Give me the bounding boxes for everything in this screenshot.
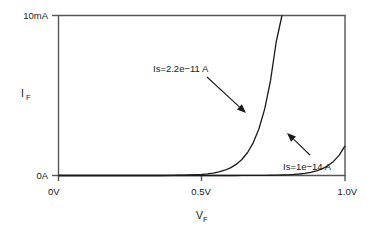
axis-ticks — [52, 16, 345, 182]
x-axis-title-subscript: F — [203, 215, 208, 224]
xtick-label-10v: 1.0V — [337, 186, 357, 197]
annotation-upper-leader — [207, 77, 239, 107]
chart-container: 10mA 0A 0V 0.5V 1.0V I F V F Is=2.2e−11 … — [0, 0, 367, 229]
x-axis-title-main: V — [196, 209, 203, 221]
data-curves — [59, 16, 346, 176]
diode-iv-chart: 10mA 0A 0V 0.5V 1.0V I F V F Is=2.2e−11 … — [0, 0, 367, 229]
xtick-label-05v: 0.5V — [191, 186, 211, 197]
x-axis-title: V F — [196, 209, 208, 224]
xtick-label-0v: 0V — [48, 186, 60, 197]
annotation-lower: Is=1e−14 A — [283, 133, 332, 172]
curve-is-2p2e-11 — [59, 16, 282, 176]
y-axis-title-main: I — [21, 87, 24, 99]
ytick-label-0a: 0A — [36, 170, 48, 181]
annotation-lower-leader — [294, 139, 311, 155]
annotation-upper: Is=2.2e−11 A — [153, 63, 246, 113]
y-axis-title: I F — [21, 87, 31, 102]
axis-frame — [58, 15, 346, 176]
y-axis-title-subscript: F — [26, 93, 31, 102]
annotation-upper-label: Is=2.2e−11 A — [153, 63, 209, 74]
ytick-label-10ma: 10mA — [23, 10, 48, 21]
annotation-lower-label: Is=1e−14 A — [283, 161, 332, 172]
